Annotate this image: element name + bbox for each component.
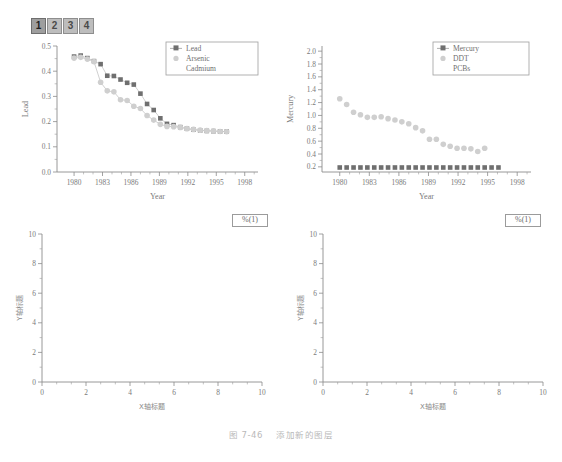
data-point-ddt: [358, 112, 364, 118]
data-point-ddt: [468, 146, 474, 152]
y-tick-label: 0.8: [307, 124, 317, 133]
layer-label-left[interactable]: %(1): [232, 214, 268, 227]
data-point-lead: [125, 80, 130, 85]
x-tick-label: 1980: [67, 178, 82, 187]
worksheet-canvas: 1234 0.00.10.20.30.40.519801983198619891…: [0, 0, 562, 462]
data-point-mercury: [372, 165, 377, 170]
data-point-arsenic: [111, 89, 117, 95]
data-point-arsenic: [151, 117, 157, 123]
data-point-mercury: [455, 165, 460, 170]
data-point-ddt: [378, 114, 384, 120]
plot-bottom-right[interactable]: 02468100246810X轴标题Y轴标题: [281, 222, 562, 422]
plot-top-right[interactable]: 0.20.40.60.81.01.21.41.61.82.01980198319…: [281, 34, 562, 214]
data-point-arsenic: [71, 55, 77, 61]
data-point-ddt: [399, 119, 405, 125]
data-point-lead: [112, 74, 117, 79]
x-tick-label: 1995: [480, 178, 495, 187]
data-point-mercury: [469, 165, 474, 170]
data-point-lead: [138, 91, 143, 96]
data-point-lead: [151, 108, 156, 113]
y-tick-label: 4: [32, 318, 36, 327]
data-point-mercury: [406, 165, 411, 170]
x-tick-label: 1980: [332, 178, 347, 187]
x-tick-label: 1986: [124, 178, 139, 187]
x-tick-label: 1983: [362, 178, 377, 187]
y-tick-label: 0.3: [42, 92, 52, 101]
x-tick-label: 1992: [180, 178, 195, 187]
data-point-lead: [145, 102, 150, 107]
layer-label-right[interactable]: %(1): [505, 214, 541, 227]
data-point-ddt: [475, 149, 481, 155]
data-point-ddt: [461, 145, 467, 151]
data-point-ddt: [351, 109, 357, 115]
y-tick-label: 0.4: [307, 150, 317, 159]
data-point-lead: [105, 73, 110, 78]
y-tick-label: 6: [313, 289, 317, 298]
y-tick-label: 10: [29, 230, 37, 239]
x-tick-label: 0: [40, 388, 44, 397]
layer-tab-4[interactable]: 4: [79, 18, 94, 34]
y-tick-label: 0.4: [42, 67, 52, 76]
y-tick-label: 0.1: [42, 142, 52, 151]
data-point-mercury: [358, 165, 363, 170]
data-point-arsenic: [104, 88, 110, 94]
layer-tab-1[interactable]: 1: [31, 18, 46, 34]
y-tick-label: 1.4: [307, 85, 317, 94]
legend-entry-ddt: DDT: [453, 54, 469, 63]
x-tick-label: 1983: [95, 178, 110, 187]
data-point-arsenic: [91, 59, 97, 65]
x-axis-title: Year: [150, 192, 165, 201]
x-tick-label: 1998: [237, 178, 252, 187]
y-tick-label: 2.0: [307, 47, 317, 56]
data-point-mercury: [489, 165, 494, 170]
data-point-mercury: [351, 165, 356, 170]
data-point-mercury: [496, 165, 501, 170]
y-tick-label: 10: [310, 230, 318, 239]
data-point-mercury: [482, 165, 487, 170]
data-point-mercury: [365, 165, 370, 170]
data-point-arsenic: [217, 129, 223, 135]
y-tick-label: 1.2: [307, 98, 317, 107]
data-point-arsenic: [164, 124, 170, 130]
data-point-ddt: [434, 136, 440, 142]
data-point-arsenic: [184, 126, 190, 132]
data-point-ddt: [337, 96, 343, 102]
y-tick-label: 0: [32, 378, 36, 387]
data-point-ddt: [482, 145, 488, 151]
data-point-mercury: [441, 165, 446, 170]
legend-entry-cadmium: Cadmium: [186, 64, 216, 73]
y-tick-label: 0.2: [307, 162, 317, 171]
data-point-mercury: [448, 165, 453, 170]
y-axis-title: Y轴标题: [296, 295, 305, 321]
layer-tab-3[interactable]: 3: [63, 18, 78, 34]
data-point-ddt: [406, 121, 412, 127]
data-point-ddt: [344, 102, 350, 108]
x-tick-label: 2: [84, 388, 88, 397]
layer-tab-2[interactable]: 2: [47, 18, 62, 34]
y-tick-label: 0.2: [42, 117, 52, 126]
data-point-mercury: [337, 165, 342, 170]
layer-tab-bar: 1234: [31, 18, 94, 34]
plot-bottom-left[interactable]: 02468100246810X轴标题Y轴标题: [0, 222, 281, 422]
y-tick-label: 4: [313, 318, 317, 327]
y-axis-title: Mercury: [286, 94, 295, 123]
data-point-mercury: [393, 165, 398, 170]
data-point-ddt: [371, 115, 377, 121]
figure-number: 图 7-46: [229, 430, 263, 440]
data-point-arsenic: [138, 106, 144, 112]
data-point-arsenic: [131, 103, 137, 109]
x-axis-title: X轴标题: [139, 402, 165, 411]
x-axis-title: X轴标题: [420, 402, 446, 411]
data-point-arsenic: [224, 129, 230, 135]
x-tick-label: 1995: [209, 178, 224, 187]
data-point-ddt: [427, 136, 433, 142]
data-point-lead: [132, 82, 137, 87]
data-point-arsenic: [98, 79, 104, 85]
figure-caption-text: 添加新的图层: [276, 430, 333, 440]
data-point-ddt: [420, 128, 426, 134]
y-tick-label: 6: [32, 289, 36, 298]
data-point-mercury: [462, 165, 467, 170]
legend-entry-lead: Lead: [186, 44, 201, 53]
chart-legend[interactable]: [433, 42, 529, 75]
plot-top-left[interactable]: 0.00.10.20.30.40.51980198319861989199219…: [0, 34, 281, 214]
